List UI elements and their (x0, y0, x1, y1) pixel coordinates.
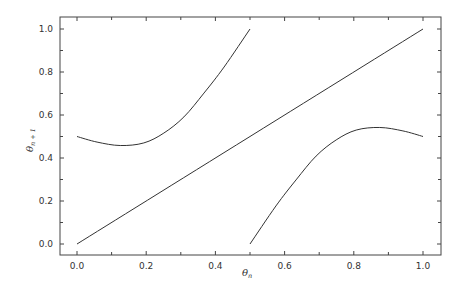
y-tick-label: 0.8 (39, 67, 54, 77)
y-tick-labels: 0.00.20.40.60.81.0 (39, 24, 54, 249)
y-tick-label: 0.4 (39, 153, 54, 163)
x-axis-label: θn (242, 267, 252, 280)
x-tick-label: 0.4 (208, 261, 223, 271)
identity-diagonal (77, 29, 423, 244)
x-tick-label: 0.2 (139, 261, 153, 271)
y-tick-label: 1.0 (39, 24, 54, 34)
y-axis-label: θn + 1 (24, 128, 37, 152)
x-tick-label: 0.6 (277, 261, 292, 271)
y-tick-label: 0.6 (39, 110, 54, 120)
map-right-branch (250, 127, 423, 244)
y-tick-label: 0.2 (39, 196, 53, 206)
x-tick-label: 0.8 (347, 261, 362, 271)
map-left-branch (77, 29, 250, 146)
y-axis-label-subscript: n + 1 (29, 128, 37, 146)
x-tick-label: 1.0 (416, 261, 431, 271)
chart-figure: 0.00.20.40.60.81.0 0.00.20.40.60.81.0 θn… (0, 0, 461, 289)
x-tick-label: 0.0 (70, 261, 85, 271)
y-tick-label: 0.0 (39, 239, 54, 249)
plot-lines (77, 29, 423, 244)
x-tick-labels: 0.00.20.40.60.81.0 (70, 261, 431, 271)
x-axis-label-subscript: n (248, 272, 252, 280)
